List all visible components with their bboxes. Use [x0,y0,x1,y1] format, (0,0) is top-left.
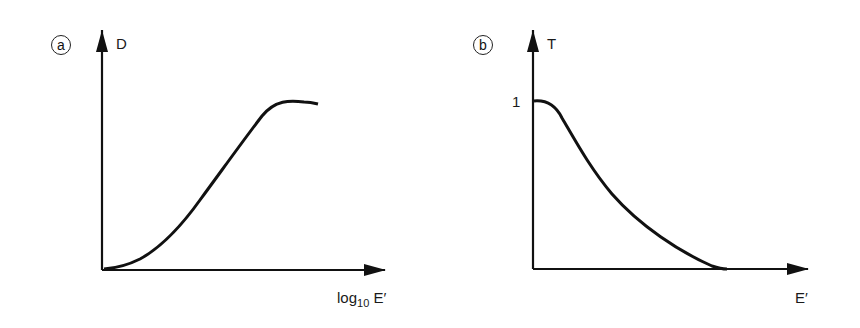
panel-b-transmittance-curve [534,101,727,269]
x-label-log: log [337,289,357,306]
panel-a-y-axis-label: D [116,36,127,51]
panel-b-plot [527,30,809,275]
panel-a-plot [96,30,386,276]
panel-a-x-axis-label: log10 E′ [337,290,386,305]
panel-a-characteristic-curve [104,101,318,269]
panel-b-y-axis-label: T [547,36,556,51]
x-label-variable: E′ [369,289,386,306]
panel-b-x-arrowhead [787,263,809,275]
panel-a-x-arrowhead [364,264,386,276]
panel-a-y-arrowhead [96,30,108,52]
panel-b-label-badge: b [473,35,493,55]
figure-canvas [0,0,860,328]
panel-b-x-axis-label: E′ [795,290,808,305]
x-label-subscript: 10 [357,297,369,309]
panel-b-y-tick-1: 1 [512,94,520,109]
panel-a-label-badge: a [51,35,71,55]
panel-b-y-arrowhead [527,30,539,52]
